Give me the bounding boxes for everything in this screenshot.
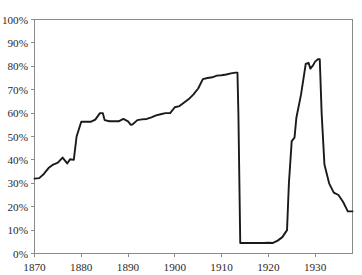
y-tick-label: 70% bbox=[7, 84, 28, 96]
x-tick-label: 1900 bbox=[164, 261, 187, 273]
x-axis-tick-labels: 1870188018901900191019201930 bbox=[23, 261, 326, 273]
x-tick-label: 1920 bbox=[257, 261, 280, 273]
x-tick-label: 1870 bbox=[23, 261, 46, 273]
y-axis-tick-labels: 0%10%20%30%40%50%60%70%80%90%100% bbox=[2, 14, 28, 260]
y-tick-label: 20% bbox=[7, 201, 28, 213]
x-tick-label: 1880 bbox=[70, 261, 93, 273]
y-tick-label: 0% bbox=[13, 248, 28, 260]
y-tick-label: 40% bbox=[7, 154, 28, 166]
y-tick-label: 100% bbox=[2, 14, 28, 26]
y-tick-label: 50% bbox=[7, 131, 28, 143]
line-chart: 0%10%20%30%40%50%60%70%80%90%100% 187018… bbox=[0, 0, 362, 275]
y-tick-label: 30% bbox=[7, 177, 28, 189]
chart-plot-area: 0%10%20%30%40%50%60%70%80%90%100% 187018… bbox=[0, 0, 362, 275]
x-tick-label: 1910 bbox=[210, 261, 233, 273]
y-tick-label: 10% bbox=[7, 224, 28, 236]
y-tick-label: 80% bbox=[7, 60, 28, 72]
plot-frame bbox=[35, 20, 353, 254]
y-tick-label: 60% bbox=[7, 107, 28, 119]
data-series-line bbox=[35, 59, 353, 243]
axis-tick-marks bbox=[31, 20, 315, 258]
x-tick-label: 1890 bbox=[117, 261, 140, 273]
y-tick-label: 90% bbox=[7, 37, 28, 49]
x-tick-label: 1930 bbox=[304, 261, 327, 273]
